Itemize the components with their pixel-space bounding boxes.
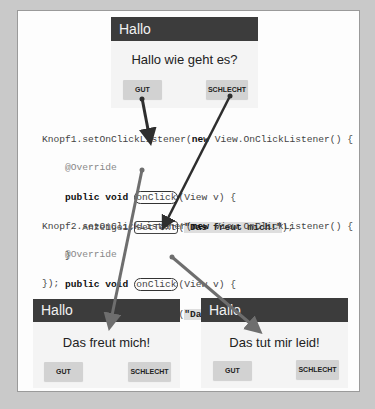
arrow-settext1-to-left-result [110, 170, 142, 325]
arrow-settext2-to-right-result [172, 257, 258, 330]
flow-arrows [0, 0, 375, 409]
arrow-schlecht-to-onclick2 [164, 96, 230, 226]
arrow-gut-to-onclick1 [142, 98, 150, 140]
